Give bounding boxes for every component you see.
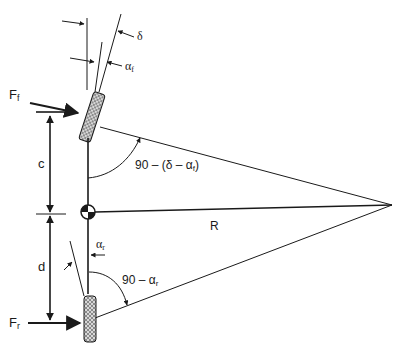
radius-label: R: [210, 219, 219, 233]
delta-label: δ: [137, 29, 143, 43]
steer-direction-line: [99, 14, 121, 92]
cg-radius-line: [95, 205, 392, 212]
alpha-f-right-arrow: [107, 62, 122, 66]
alpha-r-left-arrow: [64, 262, 72, 270]
center-of-gravity-icon: [81, 205, 95, 219]
alpha-f-top-label: αf: [125, 59, 134, 74]
front-force-label: Ff: [9, 87, 20, 103]
front-angle-label: 90 – (δ – αf): [135, 158, 199, 173]
vehicle-turn-diagram: δ αf Ff R 90 – (δ – αf) c d αr 90 – αr: [0, 0, 408, 358]
c-label: c: [38, 156, 45, 171]
rear-radius-line: [95, 205, 392, 318]
rear-angle-label: 90 – αr: [122, 273, 159, 288]
rear-wheel-heading-line: [70, 241, 84, 296]
delta-arrow: [118, 31, 134, 37]
reference-pointer-arrow: [62, 21, 84, 24]
alpha-f-left-arrow: [70, 58, 94, 62]
rear-force-label: Fr: [9, 315, 20, 331]
d-label: d: [38, 259, 45, 274]
rear-tire: [84, 296, 96, 342]
front-tire: [79, 91, 106, 142]
alpha-r-label: αr: [96, 237, 105, 252]
front-angle-arc: [88, 138, 140, 178]
